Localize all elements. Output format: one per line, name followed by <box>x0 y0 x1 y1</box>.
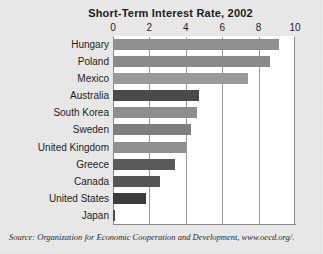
bar-row <box>113 87 295 104</box>
category-label-australia: Australia <box>70 87 109 104</box>
bars-container <box>113 36 295 224</box>
chart-title: Short-Term Interest Rate, 2002 <box>0 7 323 19</box>
x-tick-label-6: 6 <box>219 22 225 33</box>
bar-row <box>113 53 295 70</box>
bar-australia <box>113 90 199 101</box>
bar-south-korea <box>113 107 197 118</box>
x-tick-label-8: 8 <box>256 22 262 33</box>
category-label-south-korea: South Korea <box>53 104 109 121</box>
bar-canada <box>113 176 160 187</box>
bar-united-states <box>113 193 146 204</box>
bar-row <box>113 190 295 207</box>
category-label-united-states: United States <box>49 190 109 207</box>
category-label-greece: Greece <box>76 156 109 173</box>
bar-row <box>113 139 295 156</box>
bar-japan <box>113 210 115 221</box>
axis-baseline <box>113 224 296 225</box>
x-axis-tick-labels: 0246810 <box>113 22 295 35</box>
bar-poland <box>113 56 270 67</box>
category-label-hungary: Hungary <box>71 36 109 53</box>
x-tick-label-10: 10 <box>289 22 300 33</box>
bar-mexico <box>113 73 248 84</box>
category-axis-labels: HungaryPolandMexicoAustraliaSouth KoreaS… <box>0 36 111 224</box>
category-label-sweden: Sweden <box>73 121 109 138</box>
bar-hungary <box>113 39 279 50</box>
bar-united-kingdom <box>113 142 186 153</box>
bar-sweden <box>113 124 191 135</box>
bar-row <box>113 121 295 138</box>
category-label-canada: Canada <box>74 173 109 190</box>
source-note: Source: Organization for Economic Cooper… <box>9 232 317 242</box>
x-tick-label-0: 0 <box>110 22 116 33</box>
x-tick-label-4: 4 <box>183 22 189 33</box>
bar-row <box>113 207 295 224</box>
category-label-united-kingdom: United Kingdom <box>38 139 109 156</box>
bar-greece <box>113 159 175 170</box>
category-label-japan: Japan <box>82 207 109 224</box>
bar-row <box>113 173 295 190</box>
bar-row <box>113 104 295 121</box>
category-label-mexico: Mexico <box>77 70 109 87</box>
x-tick-label-2: 2 <box>147 22 153 33</box>
category-label-poland: Poland <box>78 53 109 70</box>
bar-row <box>113 70 295 87</box>
bar-row <box>113 36 295 53</box>
bar-row <box>113 156 295 173</box>
